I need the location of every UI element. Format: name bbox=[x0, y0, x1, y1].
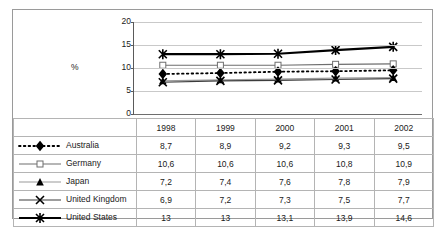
data-table: 19981999200020012002Australia8,78,99,29,… bbox=[13, 118, 434, 227]
legend-key-australia bbox=[17, 139, 63, 153]
data-point-australia bbox=[159, 70, 166, 78]
cell-australia-1999: 8,9 bbox=[196, 137, 255, 155]
column-header-1999: 1999 bbox=[196, 119, 255, 137]
legend-label: United Kingdom bbox=[63, 195, 126, 204]
cell-germany-1998: 10,6 bbox=[136, 155, 195, 173]
cell-japan-1998: 7,2 bbox=[136, 173, 195, 191]
column-header-1998: 1998 bbox=[136, 119, 195, 137]
cell-germany-2001: 10,8 bbox=[315, 155, 374, 173]
cell-united-kingdom-1999: 7,2 bbox=[196, 191, 255, 209]
gridline-10 bbox=[134, 68, 422, 69]
cell-australia-2001: 9,3 bbox=[315, 137, 374, 155]
y-tick-label-5: 5 bbox=[109, 86, 131, 95]
cell-japan-2001: 7,8 bbox=[315, 173, 374, 191]
legend-key-united-kingdom bbox=[17, 193, 63, 207]
column-header-2000: 2000 bbox=[255, 119, 314, 137]
plot-area bbox=[133, 22, 421, 114]
column-header-2002: 2002 bbox=[374, 119, 434, 137]
y-axis-unit-label: % bbox=[71, 62, 79, 72]
cell-germany-2002: 10,9 bbox=[374, 155, 434, 173]
data-point-australia bbox=[217, 69, 224, 77]
gridline-20 bbox=[134, 22, 422, 23]
table-row: United Kingdom6,97,27,37,57,7 bbox=[14, 191, 434, 209]
data-table-region: 19981999200020012002Australia8,78,99,29,… bbox=[13, 118, 434, 227]
cell-germany-1999: 10,6 bbox=[196, 155, 255, 173]
cell-australia-2000: 9,2 bbox=[255, 137, 314, 155]
cell-australia-1998: 8,7 bbox=[136, 137, 195, 155]
gridline-5 bbox=[134, 91, 422, 92]
cell-united-kingdom-2001: 7,5 bbox=[315, 191, 374, 209]
legend-key-united-states bbox=[17, 211, 63, 225]
legend-label: Australia bbox=[63, 141, 99, 150]
legend-key-germany bbox=[17, 157, 63, 171]
cell-united-states-1998: 13 bbox=[136, 209, 195, 227]
cell-japan-1999: 7,4 bbox=[196, 173, 255, 191]
legend-row-united-kingdom[interactable]: United Kingdom bbox=[14, 191, 137, 209]
cell-united-states-2000: 13,1 bbox=[255, 209, 314, 227]
y-tick-label-20: 20 bbox=[109, 17, 131, 26]
cell-japan-2002: 7,9 bbox=[374, 173, 434, 191]
legend-row-australia[interactable]: Australia bbox=[14, 137, 137, 155]
y-tick-label-10: 10 bbox=[109, 63, 131, 72]
gridline-15 bbox=[134, 45, 422, 46]
y-tick-label-15: 15 bbox=[109, 40, 131, 49]
y-tick-label-0: 0 bbox=[109, 109, 131, 118]
legend-label: Japan bbox=[63, 177, 89, 186]
legend-key-japan bbox=[17, 175, 63, 189]
chart-plot-region: % 05101520 bbox=[13, 10, 434, 118]
table-corner-cell bbox=[14, 119, 137, 137]
legend-row-japan[interactable]: Japan bbox=[14, 173, 137, 191]
gridline-0 bbox=[134, 114, 422, 115]
cell-japan-2000: 7,6 bbox=[255, 173, 314, 191]
legend-label: United States bbox=[63, 213, 117, 222]
cell-united-kingdom-2002: 7,7 bbox=[374, 191, 434, 209]
table-row: Australia8,78,99,29,39,5 bbox=[14, 137, 434, 155]
cell-united-states-1999: 13 bbox=[196, 209, 255, 227]
table-header-row: 19981999200020012002 bbox=[14, 119, 434, 137]
legend-row-germany[interactable]: Germany bbox=[14, 155, 137, 173]
cell-germany-2000: 10,6 bbox=[255, 155, 314, 173]
legend-row-united-states[interactable]: United States bbox=[14, 209, 137, 227]
legend-label: Germany bbox=[63, 159, 101, 168]
cell-united-kingdom-1998: 6,9 bbox=[136, 191, 195, 209]
chart-frame: % 05101520 19981999200020012002Australia… bbox=[12, 9, 433, 219]
cell-united-states-2001: 13,9 bbox=[315, 209, 374, 227]
cell-united-states-2002: 14,6 bbox=[374, 209, 434, 227]
cell-australia-2002: 9,5 bbox=[374, 137, 434, 155]
cell-united-kingdom-2000: 7,3 bbox=[255, 191, 314, 209]
table-row: United States131313,113,914,6 bbox=[14, 209, 434, 227]
column-header-2001: 2001 bbox=[315, 119, 374, 137]
table-row: Japan7,27,47,67,87,9 bbox=[14, 173, 434, 191]
table-row: Germany10,610,610,610,810,9 bbox=[14, 155, 434, 173]
y-axis-tick-labels: 05101520 bbox=[105, 10, 131, 114]
